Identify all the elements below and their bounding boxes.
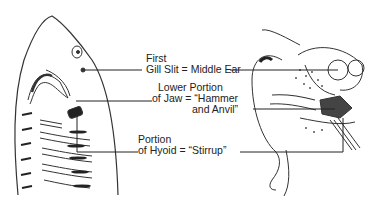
label-gill-slit: First Gill Slit = Middle Ear bbox=[146, 53, 241, 75]
label-hyoid: Portion of Hyoid = “Stirrup” bbox=[138, 134, 226, 156]
label-gill-slit-line2: Gill Slit = Middle Ear bbox=[146, 64, 241, 75]
label-lower-jaw-line3: and Anvil” bbox=[152, 104, 238, 115]
label-lower-jaw: Lower Portion of Jaw = “Hammer and Anvil… bbox=[152, 82, 238, 115]
label-hyoid-line2: of Hyoid = “Stirrup” bbox=[138, 145, 226, 156]
human-ear-drawing bbox=[252, 30, 364, 196]
shark-head-drawing bbox=[15, 16, 118, 195]
